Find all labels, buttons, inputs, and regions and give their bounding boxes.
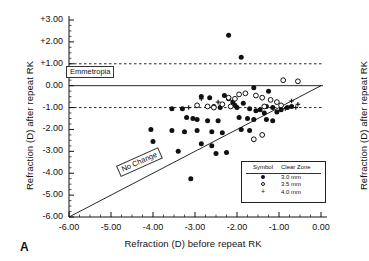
x-tick-label: -5.00: [89, 222, 133, 232]
y-tick-label: +3.00: [23, 14, 63, 24]
emmetropia-annotation: Emmetropia: [66, 66, 114, 78]
legend-value: 3.0 mm: [280, 173, 321, 181]
x-axis-label: Refraction (D) before repeat RK: [68, 238, 318, 249]
data-points-group: [148, 33, 300, 181]
legend-body: 3.0 mm3.5 mm+4.0 mm: [246, 173, 321, 196]
x-tick-label: -2.00: [215, 222, 259, 232]
legend-table: Symbol Clear Zone 3.0 mm3.5 mm+4.0 mm: [246, 164, 321, 196]
y-tick-label: -6.00: [23, 211, 63, 221]
x-tick-label: -1.00: [257, 222, 301, 232]
legend-value: 4.0 mm: [280, 189, 321, 197]
open-circle-icon: [261, 182, 265, 186]
y-tick-label: +2.00: [23, 36, 63, 46]
x-tick-label: -6.00: [47, 222, 91, 232]
y-tick-label: +1.00: [23, 58, 63, 68]
panel-letter: A: [20, 240, 29, 254]
filled-circle-icon: [261, 175, 265, 179]
x-tick-label: -3.00: [173, 222, 217, 232]
legend-row: +4.0 mm: [246, 189, 321, 197]
legend-box: Symbol Clear Zone 3.0 mm3.5 mm+4.0 mm: [241, 161, 326, 203]
plus-icon: +: [261, 189, 265, 194]
legend-header-row: Symbol Clear Zone: [246, 164, 321, 173]
legend-row: 3.0 mm: [246, 173, 321, 181]
y-tick-label: -5.00: [23, 189, 63, 199]
y-tick-label: -2.00: [23, 123, 63, 133]
legend-header-clear-zone: Clear Zone: [280, 164, 321, 173]
legend-row: 3.5 mm: [246, 181, 321, 189]
legend-header-symbol: Symbol: [246, 164, 280, 173]
y-tick-label: -4.00: [23, 167, 63, 177]
y-tick-label: 0.00: [23, 80, 63, 90]
y-axis-label-right: Refraction (D) after repeat RK: [358, 31, 369, 221]
x-tick-label: -4.00: [131, 222, 175, 232]
legend-value: 3.5 mm: [280, 181, 321, 189]
y-tick-label: -1.00: [23, 102, 63, 112]
x-tick-label: 0.00: [299, 222, 343, 232]
y-tick-label: -3.00: [23, 145, 63, 155]
